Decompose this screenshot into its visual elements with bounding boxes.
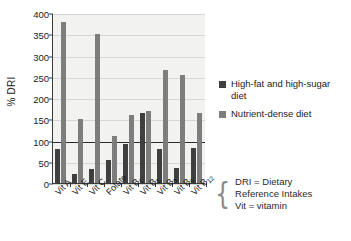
bar-group	[70, 14, 87, 183]
y-tick-mark	[49, 184, 53, 185]
y-tick-label: 150	[3, 115, 49, 126]
brace-icon: {	[215, 179, 230, 209]
bar-group	[155, 14, 172, 183]
footnote: { DRI = DietaryReference IntakesVit = vi…	[213, 176, 312, 212]
y-tick-label: 400	[3, 9, 49, 20]
legend-label: Nutrient-dense diet	[231, 108, 311, 120]
bar-series-container	[53, 14, 205, 183]
footnote-line: DRI = Dietary	[235, 176, 312, 188]
y-tick-label: 300	[3, 51, 49, 62]
bar	[129, 115, 134, 183]
footnote-lines: DRI = DietaryReference IntakesVit = vita…	[235, 176, 312, 212]
bar-group	[87, 14, 104, 183]
bar	[106, 160, 111, 183]
plot-area: 050100150200250300350400	[52, 14, 205, 184]
legend-entry: Nutrient-dense diet	[219, 108, 347, 120]
bar-group	[53, 14, 70, 183]
y-tick-label: 100	[3, 136, 49, 147]
y-tick-label: 0	[3, 179, 49, 190]
y-tick-label: 200	[3, 94, 49, 105]
y-tick-label: 50	[3, 157, 49, 168]
footnote-line: Vit = vitamin	[235, 200, 312, 212]
legend-label: High-fat and high-sugar diet	[231, 78, 347, 101]
y-tick-label: 350	[3, 30, 49, 41]
bar	[180, 75, 185, 183]
footnote-line: Reference Intakes	[235, 188, 312, 200]
y-tick-label: 250	[3, 72, 49, 83]
bar	[89, 169, 94, 183]
bar-group	[138, 14, 155, 183]
bar	[55, 149, 60, 183]
legend-swatch-icon	[219, 81, 226, 88]
bar	[61, 22, 66, 183]
bar-group	[172, 14, 189, 183]
bar	[95, 34, 100, 183]
bar	[112, 136, 117, 183]
bar-group	[189, 14, 206, 183]
bar	[197, 113, 202, 183]
chart-legend: High-fat and high-sugar dietNutrient-den…	[219, 78, 347, 127]
bar	[146, 111, 151, 183]
bar	[140, 113, 145, 183]
bar-group	[121, 14, 138, 183]
chart-figure: % DRI 050100150200250300350400 Vit AVit …	[0, 0, 351, 241]
legend-entry: High-fat and high-sugar diet	[219, 78, 347, 101]
legend-swatch-icon	[219, 111, 226, 118]
bar	[163, 70, 168, 183]
bar	[78, 119, 83, 183]
bar-group	[104, 14, 121, 183]
bar	[72, 174, 77, 183]
